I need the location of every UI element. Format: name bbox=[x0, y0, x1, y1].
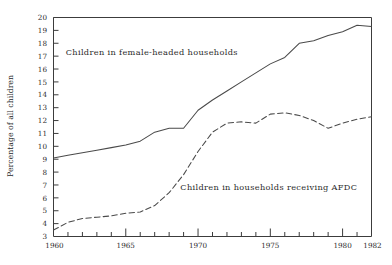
y-tick-label-8: 8 bbox=[42, 168, 47, 177]
y-tick-label-12: 12 bbox=[38, 116, 47, 125]
x-tick-label-1975: 1975 bbox=[261, 241, 280, 250]
y-tick-label-13: 13 bbox=[38, 103, 48, 112]
y-tick-label-4: 4 bbox=[42, 219, 47, 228]
x-axis-tick-labels: 196019651970197519801982 bbox=[45, 241, 381, 250]
y-tick-label-16: 16 bbox=[38, 65, 48, 74]
y-axis-tick-labels: 34567891011121314151617181920 bbox=[38, 13, 48, 241]
series-annotations: Children in female-headed householdsChil… bbox=[66, 47, 358, 192]
y-tick-label-20: 20 bbox=[38, 13, 48, 22]
y-tick-label-15: 15 bbox=[38, 78, 48, 87]
x-tick-label-1960: 1960 bbox=[45, 241, 64, 250]
y-tick-label-18: 18 bbox=[38, 39, 48, 48]
series-annotation-2: Children in households receiving AFDC bbox=[180, 182, 357, 192]
x-tick-label-1970: 1970 bbox=[189, 241, 208, 250]
y-tick-label-10: 10 bbox=[38, 142, 48, 151]
x-tick-label-1980: 1980 bbox=[333, 241, 352, 250]
y-tick-label-9: 9 bbox=[42, 155, 47, 164]
y-axis-ticks bbox=[54, 18, 59, 224]
x-tick-label-1965: 1965 bbox=[117, 241, 136, 250]
x-axis-ticks bbox=[68, 229, 357, 237]
chart-figure: 34567891011121314151617181920 1960196519… bbox=[0, 0, 392, 265]
series-line-2 bbox=[54, 113, 372, 230]
line-chart-canvas: 34567891011121314151617181920 1960196519… bbox=[0, 0, 392, 265]
y-tick-label-11: 11 bbox=[38, 129, 47, 138]
y-tick-label-19: 19 bbox=[38, 26, 48, 35]
y-tick-label-7: 7 bbox=[42, 181, 47, 190]
y-tick-label-6: 6 bbox=[42, 194, 47, 203]
series-line-1 bbox=[54, 25, 372, 158]
y-tick-label-5: 5 bbox=[42, 206, 47, 215]
y-tick-label-17: 17 bbox=[38, 52, 48, 61]
series-annotation-1: Children in female-headed households bbox=[66, 47, 238, 57]
y-axis-title: Percentage of all children bbox=[6, 75, 15, 177]
x-tick-label-1982: 1982 bbox=[363, 241, 381, 250]
y-tick-label-14: 14 bbox=[38, 90, 48, 99]
